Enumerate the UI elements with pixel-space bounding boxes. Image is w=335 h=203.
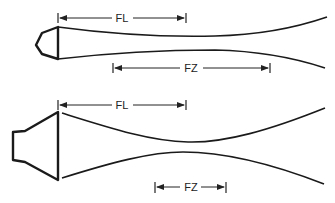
focal-length-label: FL — [116, 12, 129, 24]
beam-lower-edge-bottom — [62, 152, 324, 184]
beam-diagram: FL FZ FL FZ — [0, 0, 335, 203]
focal-zone-dimension-bottom: FZ — [155, 181, 226, 193]
beam-upper-edge-top — [58, 17, 327, 36]
bottom-diagram: FL FZ — [13, 99, 325, 193]
transducer-lens-bottom — [13, 112, 58, 180]
focal-length-dimension-bottom: FL — [58, 99, 186, 111]
transducer-lens-top — [36, 27, 58, 59]
focal-length-label: FL — [116, 99, 129, 111]
focal-zone-label: FZ — [184, 181, 198, 193]
focal-zone-label: FZ — [184, 62, 198, 74]
top-diagram: FL FZ — [36, 12, 327, 74]
focal-zone-dimension-top: FZ — [113, 62, 270, 74]
focal-length-dimension-top: FL — [58, 12, 186, 24]
beam-upper-edge-bottom — [62, 108, 325, 142]
